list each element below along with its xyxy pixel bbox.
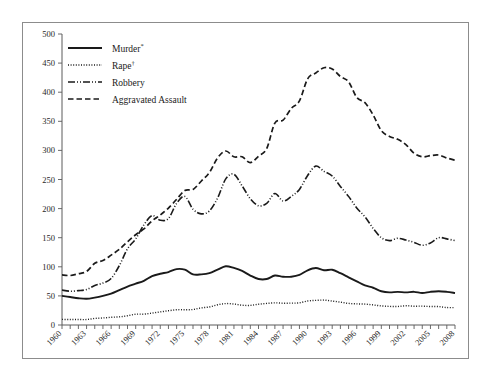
- y-tick-label: 100: [42, 262, 55, 272]
- x-axis: 1960196319661969197219751978198119841987…: [44, 325, 456, 347]
- x-tick-label: 1990: [290, 328, 309, 347]
- series-line-rape: [62, 300, 455, 320]
- line-chart: 050100150200250300350400450500 196019631…: [0, 0, 492, 374]
- x-tick-label: 1996: [339, 328, 358, 347]
- y-tick-label: 500: [42, 29, 55, 39]
- y-tick-marks: [58, 34, 62, 325]
- legend-label-aggravated-assault: Aggravated Assault: [112, 95, 187, 105]
- y-tick-label: 350: [42, 116, 55, 126]
- figure-container: 050100150200250300350400450500 196019631…: [0, 0, 492, 374]
- x-tick-label: 1978: [192, 328, 211, 347]
- x-tick-label: 1999: [364, 328, 383, 347]
- y-tick-label: 300: [42, 145, 55, 155]
- x-tick-label: 2008: [437, 328, 456, 347]
- x-tick-label: 1966: [93, 328, 112, 347]
- y-axis: 050100150200250300350400450500: [42, 29, 62, 330]
- x-tick-label: 1987: [265, 328, 284, 347]
- x-tick-label: 2002: [388, 328, 407, 347]
- legend-label-murder: Murder*: [112, 42, 144, 53]
- x-tick-label: 1972: [143, 328, 162, 347]
- series-line-murder: [62, 266, 455, 299]
- x-tick-label: 1984: [241, 328, 261, 348]
- legend-label-rape: Rape†: [112, 59, 136, 70]
- y-tick-labels: 050100150200250300350400450500: [42, 29, 55, 330]
- x-tick-marks: [62, 325, 455, 329]
- x-tick-label: 1993: [315, 328, 334, 347]
- y-tick-label: 450: [42, 58, 55, 68]
- legend-label-robbery: Robbery: [112, 78, 145, 88]
- y-tick-label: 200: [42, 204, 55, 214]
- x-tick-label: 2005: [413, 328, 432, 347]
- y-tick-label: 150: [42, 233, 55, 243]
- chart-legend: Murder*Rape†RobberyAggravated Assault: [68, 42, 187, 104]
- x-tick-label: 1963: [69, 328, 88, 347]
- x-tick-label: 1975: [167, 328, 186, 347]
- x-tick-label: 1981: [216, 328, 235, 347]
- x-tick-label: 1969: [118, 328, 137, 347]
- y-tick-label: 400: [42, 87, 55, 97]
- data-series-group: [62, 67, 455, 319]
- y-tick-label: 50: [47, 291, 56, 301]
- x-tick-label: 1960: [44, 328, 63, 347]
- x-tick-labels: 1960196319661969197219751978198119841987…: [44, 328, 456, 348]
- y-tick-label: 250: [42, 175, 55, 185]
- y-tick-label: 0: [51, 320, 55, 330]
- series-line-robbery: [62, 166, 455, 291]
